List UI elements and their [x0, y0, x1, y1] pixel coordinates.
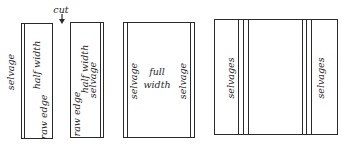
- right-selvage-line: [190, 22, 191, 138]
- left-selvage-label: selvage: [129, 63, 139, 99]
- seam-line: [243, 19, 244, 135]
- seam-line: [306, 19, 307, 135]
- left-selvages-label: selvages: [226, 57, 236, 98]
- seam-line: [302, 19, 303, 135]
- selvage-label: selvage: [6, 54, 16, 90]
- down-arrow-icon: [58, 14, 66, 24]
- half-width-label: half width: [32, 41, 42, 90]
- right-selvage-label: selvage: [178, 63, 188, 99]
- seam-line: [238, 19, 239, 135]
- seam-line: [248, 19, 249, 135]
- raw-edge-label: raw edge: [39, 95, 49, 140]
- full-label: full: [149, 67, 165, 77]
- selvage-label: selvage: [88, 62, 98, 98]
- seam-line: [311, 19, 312, 135]
- selvage-line: [24, 23, 25, 139]
- right-selvages-label: selvages: [316, 57, 326, 98]
- raw-edge-label: raw edge: [72, 92, 82, 137]
- width-label: width: [143, 80, 170, 90]
- selvage-line: [100, 22, 101, 138]
